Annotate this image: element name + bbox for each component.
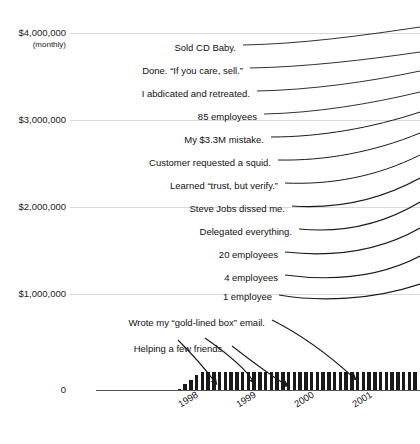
bar [206,372,210,390]
bar [218,372,222,390]
bar [316,372,320,390]
bar [408,372,412,390]
bar [362,372,366,390]
bar [183,384,187,390]
bar [275,372,279,390]
bar [229,372,233,390]
bar [373,372,377,390]
bar [367,372,371,390]
bar [293,372,297,390]
bar [304,372,308,390]
bar [270,372,274,390]
bar [224,372,228,390]
bar [235,372,239,390]
bar [252,372,256,390]
bar [350,372,354,390]
bar [402,372,406,390]
revenue-growth-chart: $4,000,000 (monthly) $3,000,000 $2,000,0… [0,0,420,444]
bar [212,372,216,390]
bar [356,372,360,390]
bar [333,372,337,390]
bar [339,372,343,390]
bar [379,372,383,390]
bar [413,372,417,390]
bar-series [0,0,420,390]
bar [344,372,348,390]
bar [321,372,325,390]
bar [390,372,394,390]
bar [327,372,331,390]
bar [201,372,205,390]
bar [264,372,268,390]
bar [247,372,251,390]
bar [287,372,291,390]
bar [396,372,400,390]
bar [310,372,314,390]
bar [385,372,389,390]
bar [241,372,245,390]
bar [281,372,285,390]
bar [298,372,302,390]
bar [178,389,182,390]
bar [258,372,262,390]
bar [195,375,199,390]
